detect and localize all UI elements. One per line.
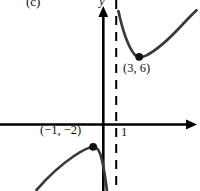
coordinate-plane xyxy=(0,0,200,191)
curve-right-branch xyxy=(118,10,196,57)
x-tick-label-1: 1 xyxy=(121,126,127,139)
annotation-label-minimum: (3, 6) xyxy=(123,62,150,75)
x-axis-arrowhead-icon xyxy=(186,120,197,130)
point-marker-minimum xyxy=(135,53,143,61)
curve-left-branch xyxy=(37,147,108,191)
point-marker-maximum xyxy=(89,143,97,151)
annotation-label-maximum: (−1, −2) xyxy=(40,124,81,137)
x-axis xyxy=(0,120,197,130)
graph-figure: (c) y (3, 6) (−1, −2) 1 xyxy=(0,0,200,191)
part-label: (c) xyxy=(26,0,40,8)
y-axis-label: y xyxy=(99,0,105,7)
